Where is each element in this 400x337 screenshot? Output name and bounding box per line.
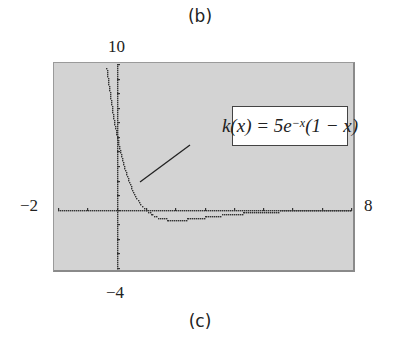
function-label-tail: (1 − x) <box>305 115 358 137</box>
function-label-main: k(x) = 5e <box>222 115 292 137</box>
function-plot <box>0 0 400 337</box>
bottom-caption: (c) <box>0 311 400 331</box>
function-label-exponent: −x <box>292 116 305 131</box>
function-label-box: k(x) = 5e−x(1 − x) <box>232 106 348 146</box>
